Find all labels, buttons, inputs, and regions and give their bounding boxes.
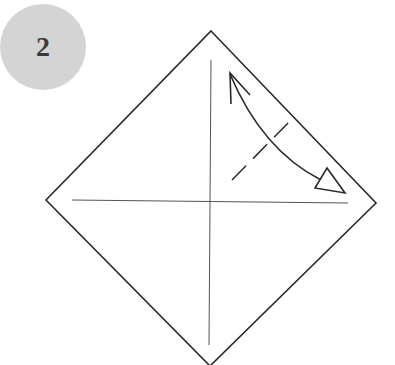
origami-diagram xyxy=(0,0,395,365)
fold-arrow-curve xyxy=(230,74,321,180)
fold-arrow xyxy=(230,73,345,193)
fold-arrow-tail-head-icon xyxy=(230,73,250,104)
vertical-crease xyxy=(209,60,211,345)
fold-arrow-triangle-head-icon xyxy=(315,168,345,193)
